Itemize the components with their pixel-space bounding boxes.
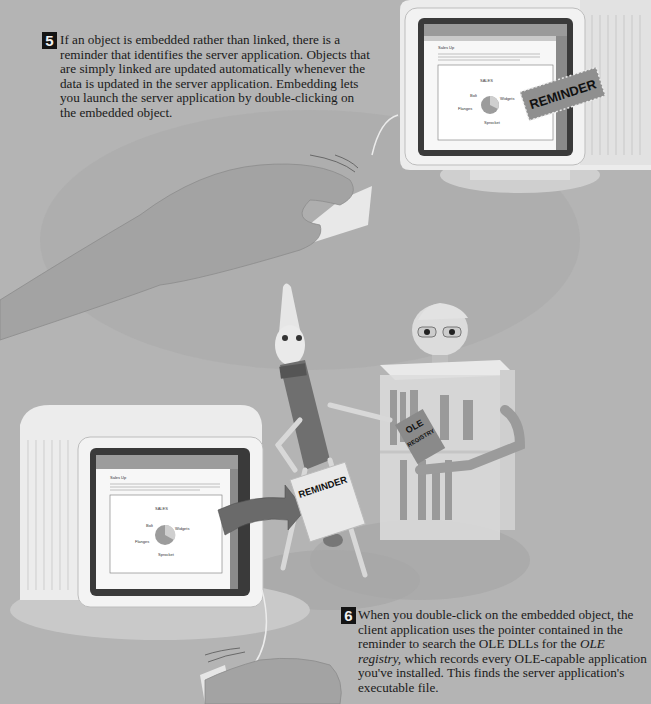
- top-monitor: Sales Up SALES Bolt Widgets Flanges Spro…: [400, 0, 651, 193]
- step-6-text: When you double-click on the embedded ob…: [358, 608, 648, 696]
- book-page: Sales Up SALES Bolt Widgets Flanges Spro…: [0, 0, 651, 704]
- pie-label: Flanges: [135, 539, 149, 544]
- pie-label: Bolt: [470, 93, 478, 98]
- step-5-badge: 5: [42, 32, 57, 49]
- pie-label: Sprocket: [158, 552, 175, 557]
- step-5-caption: 5 If an object is embedded rather than l…: [60, 33, 370, 121]
- step-6-caption: 6 When you double-click on the embedded …: [358, 608, 648, 696]
- top-screen-doc-title: Sales Up: [438, 45, 455, 50]
- step-5-text: If an object is embedded rather than lin…: [60, 33, 370, 121]
- step-6-badge: 6: [341, 607, 356, 624]
- pie-label: Sprocket: [484, 120, 501, 125]
- top-screen-chart-title: SALES: [480, 78, 493, 83]
- hand-on-mouse-bottom: [200, 648, 341, 704]
- pie-label: Widgets: [500, 96, 514, 101]
- bottom-screen-doc-title: Sales Up: [110, 475, 127, 480]
- pie-label: Flanges: [458, 106, 472, 111]
- bottom-screen-chart-title: SALES: [155, 506, 168, 511]
- step-6-text-part: which records every OLE-capable applicat…: [358, 651, 647, 695]
- pie-label: Widgets: [175, 526, 189, 531]
- pie-label: Bolt: [146, 523, 154, 528]
